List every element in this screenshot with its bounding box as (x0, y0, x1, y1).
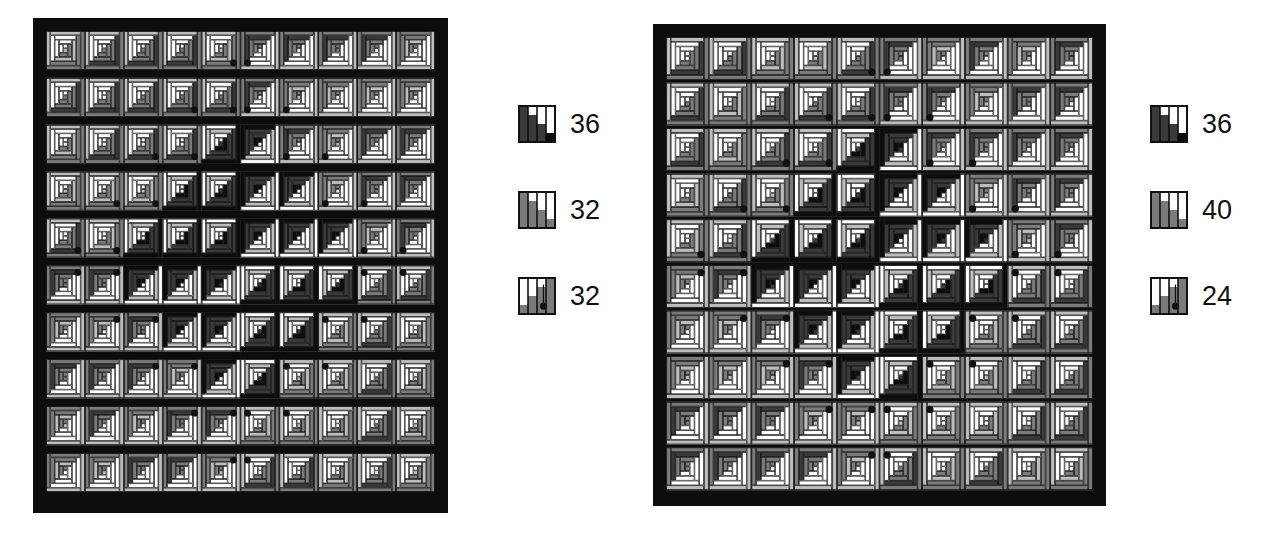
legend-row: 40 (1150, 191, 1232, 229)
legend-swatch (1150, 191, 1188, 229)
legend-swatch-canvas (1151, 106, 1187, 142)
quilt-left-canvas (33, 18, 448, 513)
legend-value: 32 (570, 283, 600, 310)
legend-row: 36 (518, 105, 600, 143)
legend-row: 32 (518, 191, 600, 229)
quilt-right-canvas (653, 24, 1106, 506)
legend-swatch (1150, 105, 1188, 143)
legend-value: 36 (570, 111, 600, 138)
legend-swatch (518, 105, 556, 143)
legend-value: 24 (1202, 283, 1232, 310)
legend-row: 36 (1150, 105, 1232, 143)
quilt-left (33, 18, 448, 513)
legend-swatch-canvas (519, 192, 555, 228)
legend-left: 36 32 32 (518, 105, 638, 335)
legend-value: 36 (1202, 111, 1232, 138)
legend-right: 36 40 24 (1150, 105, 1270, 335)
quilt-diagram-page: 36 32 32 (0, 0, 1280, 557)
quilt-right-wrap (653, 24, 1106, 506)
legend-swatch (1150, 277, 1188, 315)
quilt-left-wrap (33, 18, 448, 513)
legend-swatch-canvas (519, 106, 555, 142)
legend-swatch-canvas (1151, 278, 1187, 314)
legend-row: 32 (518, 277, 600, 315)
legend-row: 24 (1150, 277, 1232, 315)
legend-swatch (518, 277, 556, 315)
legend-value: 40 (1202, 197, 1232, 224)
legend-swatch (518, 191, 556, 229)
legend-swatch-canvas (1151, 192, 1187, 228)
quilt-right (653, 24, 1106, 506)
legend-swatch-canvas (519, 278, 555, 314)
legend-value: 32 (570, 197, 600, 224)
